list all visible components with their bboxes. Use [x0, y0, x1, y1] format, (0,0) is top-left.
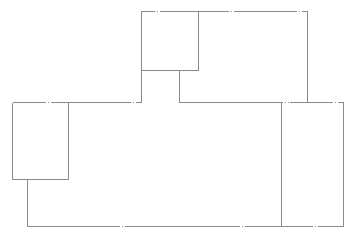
openings — [46, 12, 339, 227]
wall-top-outline — [142, 12, 308, 103]
wall-top-small-room — [142, 12, 199, 71]
wall-left-stem — [28, 103, 344, 227]
wall-left-room — [13, 103, 69, 180]
floor-plan — [0, 0, 349, 234]
walls — [13, 12, 344, 227]
